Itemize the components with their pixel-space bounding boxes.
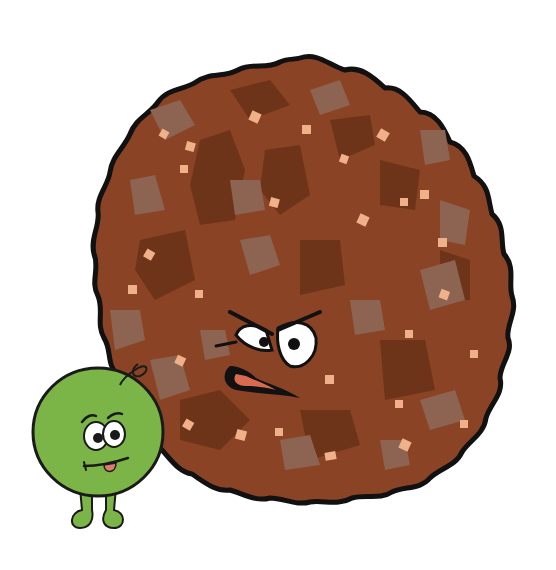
pea-right-pupil (110, 430, 120, 440)
meatball-left-pupil (259, 337, 269, 347)
pea-character (33, 364, 163, 528)
pea-left-pupil (93, 433, 103, 443)
meatball-right-pupil (288, 338, 300, 350)
pea-tongue (104, 463, 116, 472)
illustration-canvas: Cartoon of an angry meatball with a smal… (0, 0, 556, 570)
cartoon-illustration (0, 0, 556, 570)
